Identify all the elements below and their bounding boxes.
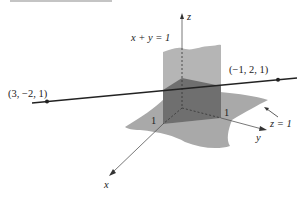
label-plane-z: z = 1 — [269, 118, 292, 129]
label-tick-y: 1 — [224, 107, 229, 118]
label-tick-x: 1 — [151, 115, 156, 126]
z-plane-pointer — [267, 109, 278, 117]
z-axis-arrow-icon — [180, 13, 184, 19]
point-b-marker — [276, 78, 280, 82]
label-axis-z: z — [186, 11, 191, 22]
label-point-b: (−1, 2, 1) — [229, 64, 269, 76]
point-a-marker — [45, 100, 49, 104]
label-point-a: (3, −2, 1) — [8, 88, 48, 100]
x-axis — [113, 124, 163, 172]
diagram-canvas: x + y = 1 z (3, −2, 1) (−1, 2, 1) z = 1 … — [0, 0, 305, 208]
label-plane-xy: x + y = 1 — [130, 32, 170, 43]
y-axis-arrow-icon — [259, 126, 267, 131]
label-axis-y: y — [255, 132, 261, 143]
label-axis-x: x — [103, 179, 109, 190]
